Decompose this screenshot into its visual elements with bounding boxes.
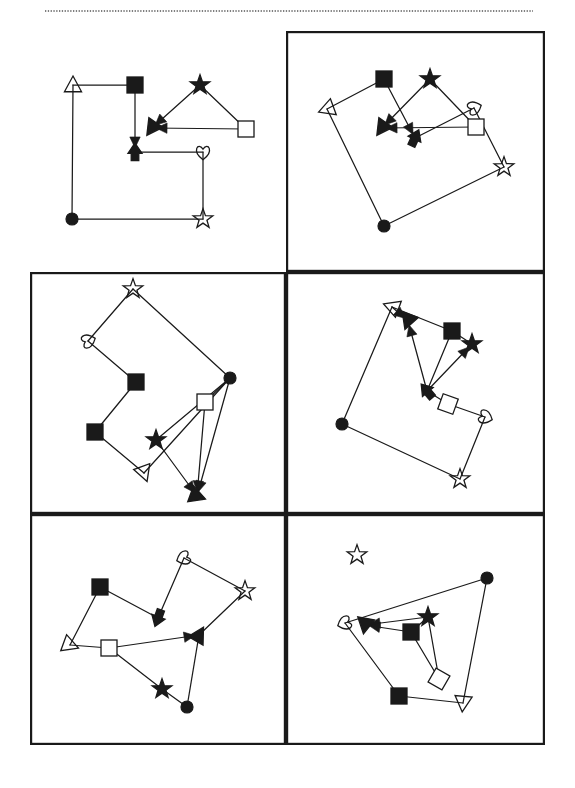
figure-reference-nodes — [64, 75, 254, 228]
marker-filled-arrow — [128, 143, 142, 161]
marker-open-triangle — [316, 99, 337, 120]
edge-segment — [327, 109, 384, 226]
panel-bottom-left-border — [31, 515, 285, 744]
edge-segment — [70, 587, 100, 645]
marker-open-square — [101, 640, 117, 656]
figure-rotated-c — [336, 296, 494, 487]
marker-filled-square — [444, 323, 460, 339]
edge-segment — [384, 167, 504, 226]
marker-open-square — [468, 119, 484, 135]
marker-filled-square — [87, 424, 103, 440]
marker-open-square — [197, 394, 213, 410]
panel-middle-left-border — [31, 273, 285, 513]
marker-open-triangle — [454, 696, 472, 713]
edge-segment — [100, 587, 158, 618]
edge-segment — [460, 417, 485, 479]
marker-open-heart — [467, 99, 484, 116]
marker-open-star — [347, 545, 367, 564]
edge-segment — [427, 331, 452, 391]
panel-top-right-border — [287, 32, 544, 271]
marker-filled-square — [403, 624, 419, 640]
panel-middle-right-border — [287, 273, 544, 513]
figure-rotated-c-edges — [342, 307, 485, 479]
edge-segment — [399, 696, 463, 703]
marker-open-star — [235, 581, 255, 600]
marker-open-heart — [175, 550, 192, 567]
edge-segment — [184, 558, 245, 591]
marker-filled-square — [128, 374, 144, 390]
marker-filled-star — [420, 69, 440, 88]
marker-filled-square — [391, 688, 407, 704]
marker-filled-circle — [181, 701, 193, 713]
edge-segment — [199, 591, 245, 635]
figure-rotated-d — [61, 550, 255, 713]
edge-segment — [342, 307, 392, 424]
marker-filled-circle — [336, 418, 348, 430]
marker-filled-square — [376, 71, 392, 87]
edge-segment — [187, 635, 199, 707]
figure-canvas — [0, 0, 575, 788]
marker-open-square — [428, 668, 450, 690]
edge-segment — [72, 85, 73, 219]
edge-segment — [88, 289, 133, 341]
edge-segment — [158, 558, 184, 618]
edge-segment — [463, 578, 487, 703]
figure-rotated-e — [336, 545, 493, 713]
edge-segment — [345, 623, 399, 696]
figure-rotated-a-nodes — [316, 69, 514, 232]
figure-rotated-a-edges — [327, 79, 504, 226]
figure-rotated-a — [316, 69, 514, 232]
marker-filled-arrow — [148, 608, 167, 629]
figure-rotated-d-nodes — [61, 550, 255, 713]
edge-segment — [345, 578, 487, 623]
marker-open-square — [438, 394, 459, 415]
marker-filled-square — [92, 579, 108, 595]
figure-reference-edges — [72, 85, 246, 219]
figure-sheet — [0, 0, 575, 788]
edge-segment — [474, 108, 504, 167]
marker-filled-circle — [378, 220, 390, 232]
marker-filled-star — [146, 430, 166, 449]
marker-filled-circle — [224, 372, 236, 384]
edge-segment — [156, 378, 230, 440]
marker-open-square — [238, 121, 254, 137]
figure-rotated-b — [81, 279, 236, 507]
figure-reference — [64, 75, 254, 228]
edge-segment — [415, 108, 474, 138]
edge-segment — [342, 424, 460, 479]
marker-open-heart — [478, 409, 495, 426]
marker-filled-square — [127, 77, 143, 93]
figure-rotated-e-nodes — [336, 545, 493, 713]
figure-rotated-b-edges — [88, 289, 230, 496]
marker-filled-circle — [481, 572, 493, 584]
marker-filled-circle — [66, 213, 78, 225]
edge-segment — [133, 289, 230, 378]
